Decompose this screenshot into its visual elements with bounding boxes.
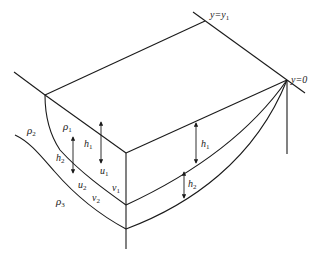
label-rho2: ρ2 [26,124,36,138]
label-h1-right: h1 [201,138,210,151]
interface-2-left-curve [15,135,126,229]
label-h2-right: h2 [188,178,197,191]
label-y-y1: y=y1 [209,9,230,22]
left-extension-line [14,72,45,95]
label-rho1: ρ1 [62,120,72,134]
label-y-zero: y=0 [290,74,307,85]
top-face-back-edge [45,21,205,95]
label-u1: u1 [100,165,109,178]
label-h1-left: h1 [84,138,93,151]
label-v1: v1 [112,182,120,195]
line-y1-axis [193,12,305,93]
interface-2-right-curve [126,80,287,229]
diagram-canvas: y=y1 y=0 ρ2 ρ1 ρ3 h1 h2 h1 h2 u1 v1 u2 v… [0,0,319,257]
label-v2: v2 [92,192,100,205]
label-rho3: ρ3 [55,195,65,209]
label-u2: u2 [78,179,87,192]
layer-diagram: y=y1 y=0 ρ2 ρ1 ρ3 h1 h2 h1 h2 u1 v1 u2 v… [0,0,319,257]
